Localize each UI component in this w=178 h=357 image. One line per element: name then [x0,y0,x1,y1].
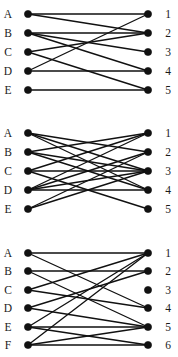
right-node-label-1: 1 [165,8,171,20]
graph-edge [28,253,148,345]
right-node-label-1: 1 [165,127,171,139]
panel-edges-1 [28,14,148,90]
right-node-6[interactable] [144,341,151,348]
right-node-label-6: 6 [165,339,171,351]
right-node-label-2: 2 [165,265,171,277]
right-node-5[interactable] [144,86,151,93]
left-node-c[interactable] [24,167,31,174]
right-node-label-3: 3 [165,46,171,58]
left-node-b[interactable] [24,267,31,274]
edges-layer [28,14,148,345]
right-node-5[interactable] [144,205,151,212]
left-node-label-a: A [4,127,13,139]
panel-edges-2 [28,133,148,209]
left-node-label-b: B [4,27,12,39]
left-node-d[interactable] [24,304,31,311]
graph-edge [28,14,148,71]
right-node-label-1: 1 [165,247,171,259]
left-node-label-e: E [4,84,11,96]
bipartite-graphs-figure: ABCDE12345ABCDE12345ABCDEF123456 [0,0,178,357]
right-node-label-3: 3 [165,165,171,177]
left-node-label-d: D [4,184,12,196]
left-node-b[interactable] [24,148,31,155]
left-node-label-a: A [4,8,13,20]
left-node-label-e: E [4,321,11,333]
left-node-label-c: C [4,165,12,177]
left-node-a[interactable] [24,129,31,136]
left-node-a[interactable] [24,10,31,17]
right-node-label-5: 5 [165,203,171,215]
right-node-3[interactable] [144,48,151,55]
right-node-1[interactable] [144,249,151,256]
left-node-label-d: D [4,65,12,77]
right-node-2[interactable] [144,267,151,274]
right-node-label-3: 3 [165,284,171,296]
right-node-4[interactable] [144,67,151,74]
figure-canvas: ABCDE12345ABCDE12345ABCDEF123456 [0,0,178,357]
left-node-e[interactable] [24,205,31,212]
nodes-layer [24,10,151,348]
right-node-5[interactable] [144,323,151,330]
left-node-c[interactable] [24,286,31,293]
left-node-d[interactable] [24,186,31,193]
left-node-c[interactable] [24,48,31,55]
left-node-label-c: C [4,284,12,296]
right-node-4[interactable] [144,186,151,193]
left-node-label-b: B [4,146,12,158]
left-node-label-b: B [4,265,12,277]
graph-edge [28,253,148,327]
left-node-label-a: A [4,247,13,259]
graph-edge [28,33,148,71]
right-node-2[interactable] [144,29,151,36]
right-node-label-2: 2 [165,146,171,158]
right-node-label-2: 2 [165,27,171,39]
right-node-1[interactable] [144,10,151,17]
right-node-label-4: 4 [165,65,171,77]
left-node-f[interactable] [24,341,31,348]
graph-edge [28,152,148,209]
right-node-3[interactable] [144,167,151,174]
left-node-d[interactable] [24,67,31,74]
left-node-label-c: C [4,46,12,58]
left-node-label-e: E [4,203,11,215]
right-node-label-5: 5 [165,321,171,333]
right-node-3[interactable] [144,286,151,293]
right-node-4[interactable] [144,304,151,311]
panel-edges-3 [28,253,148,345]
right-node-label-5: 5 [165,84,171,96]
graph-edge [28,14,148,33]
right-node-label-4: 4 [165,184,171,196]
left-node-e[interactable] [24,86,31,93]
left-node-e[interactable] [24,323,31,330]
left-node-label-f: F [5,339,11,351]
right-node-1[interactable] [144,129,151,136]
left-node-label-d: D [4,302,12,314]
left-node-a[interactable] [24,249,31,256]
graph-edge [28,308,148,327]
right-node-2[interactable] [144,148,151,155]
right-node-label-4: 4 [165,302,171,314]
left-node-b[interactable] [24,29,31,36]
